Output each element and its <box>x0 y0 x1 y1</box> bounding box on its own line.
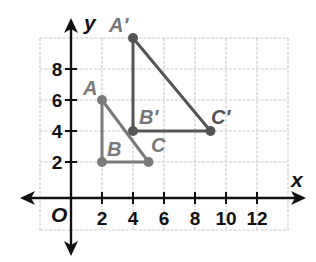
y-tick-labels: 2 4 6 8 <box>52 59 63 173</box>
label-a: A <box>82 77 97 99</box>
y-tick-label: 6 <box>52 90 63 111</box>
point-b <box>97 157 107 167</box>
x-tick-label: 10 <box>215 208 236 229</box>
triangle-a-prime-b-prime-c-prime: A′ B′ C′ <box>108 14 231 136</box>
y-tick-label: 2 <box>52 152 63 173</box>
label-c-prime: C′ <box>211 106 231 128</box>
point-b-prime <box>128 126 138 136</box>
x-tick-label: 8 <box>190 208 201 229</box>
x-tick-label: 4 <box>128 208 139 229</box>
label-b: B <box>107 138 121 160</box>
label-a-prime: A′ <box>108 14 129 36</box>
label-c: C <box>151 134 166 156</box>
y-tick-label: 4 <box>52 121 63 142</box>
x-tick-label: 2 <box>97 208 108 229</box>
coordinate-plane: 2 4 6 8 10 12 2 4 6 8 y x O A B C A′ B′ … <box>0 0 316 262</box>
point-a <box>97 95 107 105</box>
x-tick-label: 6 <box>159 208 170 229</box>
label-b-prime: B′ <box>139 106 159 128</box>
x-tick-label: 12 <box>246 208 267 229</box>
x-axis-label: x <box>290 168 304 191</box>
point-c <box>144 157 154 167</box>
x-tick-labels: 2 4 6 8 10 12 <box>97 208 268 229</box>
y-axis-label: y <box>83 11 97 34</box>
y-tick-label: 8 <box>52 59 63 80</box>
origin-label: O <box>51 203 67 226</box>
point-a-prime <box>128 33 138 43</box>
